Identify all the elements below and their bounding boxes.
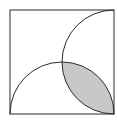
shaded-lens-region <box>62 62 114 114</box>
geometry-diagram <box>0 0 117 120</box>
